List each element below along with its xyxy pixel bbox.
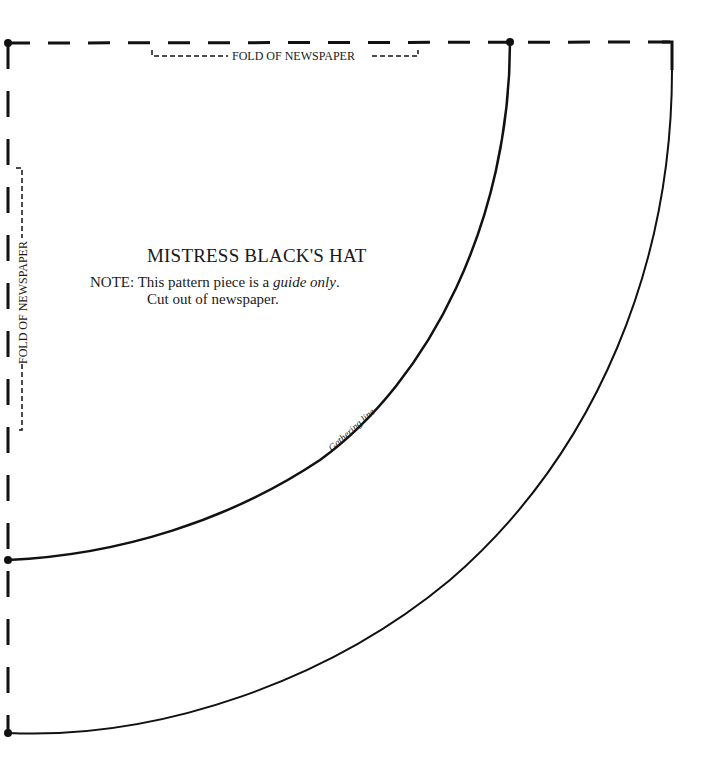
note-line2: Cut out of newspaper. [90,291,340,308]
top-fold-label: FOLD OF NEWSPAPER [232,49,355,64]
left-fold-bracket-top [16,168,22,238]
right-corner-edge [662,42,672,70]
corner-dot-top-left [4,39,12,47]
pattern-title: MISTRESS BLACK'S HAT [147,245,367,267]
note-line1-italic: guide only [273,274,336,290]
corner-dot-top-middle [506,38,514,46]
corner-dot-bottom-left [4,729,12,737]
note-prefix: NOTE: [90,274,134,290]
left-fold-label: FOLD OF NEWSPAPER [16,241,31,364]
top-fold-bracket-right [372,50,418,56]
top-fold-label-text: FOLD OF NEWSPAPER [232,49,355,63]
note-line1-pre: This pattern piece is a [138,274,273,290]
left-fold-bracket-bottom [16,364,22,430]
pattern-note: NOTE: This pattern piece is a guide only… [90,274,340,308]
top-fold-bracket-left [152,50,228,56]
note-line1-post: . [336,274,340,290]
hat-pattern-drawing [0,0,715,781]
left-fold-label-text: FOLD OF NEWSPAPER [16,241,30,364]
corner-dot-left-middle [4,556,12,564]
top-fold-edge-dashed [8,42,670,43]
outer-curve-edge [8,70,672,734]
